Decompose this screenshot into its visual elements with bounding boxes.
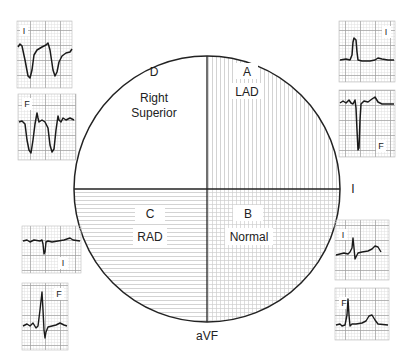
ecg-lead-label: F: [56, 289, 62, 299]
axis-diagram: A LAD D Right Superior C RAD B Normal aV…: [0, 0, 410, 363]
quadrant-d-name-line1: Right: [140, 91, 169, 105]
quadrant-c-name: RAD: [137, 230, 163, 244]
quadrant-b-name: Normal: [230, 230, 269, 244]
ecg-lead-label: I: [342, 230, 345, 240]
ecg-lead-label: F: [24, 99, 30, 109]
ecg-panel-a-lead-f: F: [339, 90, 395, 157]
ecg-panel-b-lead-i: I: [335, 220, 389, 280]
avf-axis-label: aVF: [196, 329, 218, 343]
ecg-lead-label: F: [341, 298, 347, 308]
ecg-panel-c-lead-i: I: [22, 226, 81, 273]
quadrant-a-letter: A: [243, 65, 251, 79]
ecg-lead-label: I: [385, 27, 388, 37]
quadrant-a-name: LAD: [235, 85, 259, 99]
ecg-panel-b-lead-f: F: [335, 288, 389, 340]
quadrant-b-letter: B: [244, 207, 252, 221]
ecg-lead-label: I: [62, 258, 65, 268]
ecg-panel-d-lead-f: F: [18, 94, 76, 160]
quadrant-c-letter: C: [146, 207, 155, 221]
ecg-lead-label: I: [23, 26, 26, 36]
ecg-panel-d-lead-i: I: [17, 21, 72, 88]
quadrant-d-name-line2: Superior: [131, 106, 176, 120]
quadrant-d-letter: D: [150, 65, 159, 79]
quadrant-b-fill: [207, 189, 341, 323]
lead-i-axis-label: I: [351, 182, 354, 196]
ecg-panel-a-lead-i: I: [339, 21, 395, 82]
ecg-panel-c-lead-f: F: [22, 283, 68, 350]
quadrant-d-label: D Right Superior: [131, 65, 176, 120]
quadrant-a-fill: [207, 55, 341, 189]
ecg-lead-label: F: [378, 141, 384, 151]
